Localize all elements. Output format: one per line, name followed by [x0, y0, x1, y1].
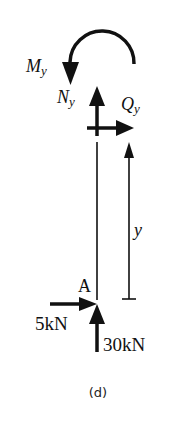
normal-force-label: Ny [56, 87, 75, 109]
free-body-diagram: My Ny Qy y A 5kN 30kN (d) [0, 0, 169, 428]
y-coordinate-label: y [132, 220, 142, 240]
horizontal-load-arrow-icon [50, 297, 97, 311]
shear-force-label: Qy [121, 94, 140, 116]
shear-force-arrow-icon [87, 120, 134, 136]
figure-caption: (d) [89, 385, 107, 400]
moment-arrow-icon [62, 31, 134, 85]
horizontal-load-label: 5kN [35, 313, 68, 334]
moment-label: My [25, 56, 47, 78]
point-a-label: A [78, 276, 91, 296]
vertical-load-label: 30kN [103, 334, 146, 355]
